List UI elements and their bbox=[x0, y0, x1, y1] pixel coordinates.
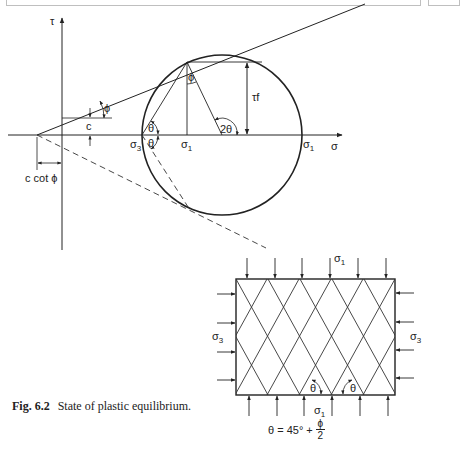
bottom-load-label: σ1 bbox=[314, 404, 326, 419]
formula-lhs: θ = 45° + bbox=[268, 424, 313, 436]
figure-caption-text: State of plastic equilibrium. bbox=[58, 399, 191, 413]
tau-axis-label: τ bbox=[50, 15, 55, 27]
phi-inner-label: ϕ bbox=[188, 71, 194, 83]
theta-lower-label: θ bbox=[148, 137, 154, 149]
failure-envelope-line bbox=[37, 4, 365, 135]
tau-f-label: τf bbox=[252, 91, 260, 103]
lower-envelope-dashed bbox=[37, 135, 266, 248]
theta-upper-label: θ bbox=[148, 122, 154, 134]
theta-formula: θ = 45° + ϕ 2 bbox=[268, 418, 325, 441]
formula-numerator: ϕ bbox=[317, 418, 323, 429]
c-cot-phi-label: c cot ϕ bbox=[25, 172, 57, 184]
sigma-axis-label: σ bbox=[331, 140, 338, 152]
element-theta-left-label: θ bbox=[310, 382, 316, 394]
cohesion-label: c bbox=[86, 120, 92, 132]
right-load-label: σ3 bbox=[410, 330, 422, 345]
formula-fraction: ϕ 2 bbox=[316, 418, 325, 441]
formula-denominator: 2 bbox=[318, 430, 324, 441]
sigma3-label: σ3 bbox=[130, 138, 142, 153]
top-load-label: σ1 bbox=[334, 252, 346, 267]
phi-envelope-label: ϕ bbox=[104, 102, 110, 114]
sigma1-right-label: σ1 bbox=[303, 138, 315, 153]
figure-number: Fig. 6.2 bbox=[12, 399, 50, 413]
left-load-label: σ3 bbox=[212, 330, 224, 345]
figure-caption: Fig. 6.2State of plastic equilibrium. bbox=[12, 399, 191, 414]
two-theta-label: 2θ bbox=[220, 123, 232, 135]
top-load-arrows bbox=[247, 258, 386, 278]
sigma1-center-label: σ1 bbox=[181, 138, 193, 153]
element-theta-right-label: θ bbox=[350, 382, 356, 394]
